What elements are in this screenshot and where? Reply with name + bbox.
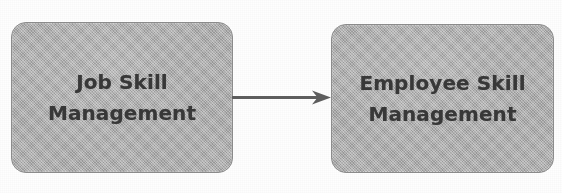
process-node-label-line2: Management (48, 98, 196, 129)
process-node-label-line1: Employee Skill (359, 68, 525, 99)
process-node-label-line1: Job Skill (76, 67, 168, 98)
flow-arrow-job-to-employee[interactable] (228, 84, 336, 112)
diagram-canvas: Job Skill Management Employee Skill Mana… (0, 0, 562, 193)
process-node-job-skill-management[interactable]: Job Skill Management (11, 22, 233, 173)
process-node-label-line2: Management (368, 99, 516, 130)
process-node-employee-skill-management[interactable]: Employee Skill Management (331, 24, 554, 173)
